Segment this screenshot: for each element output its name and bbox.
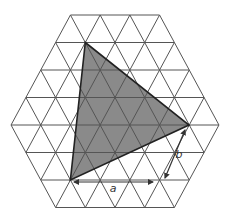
grid-line [41,70,56,98]
grid-line [56,43,71,71]
grid-line [56,125,71,153]
grid-line [70,180,85,208]
grid-line [174,180,189,208]
grid-line [41,180,56,208]
grid-line [26,98,41,126]
grid-line [85,180,100,208]
grid-line [26,70,41,98]
grid-line [204,98,219,126]
grid-line [160,43,175,71]
grid-line [11,125,26,153]
grid-line [115,15,130,43]
grid-line [189,125,204,153]
grid-line [56,15,71,43]
grid-line [174,70,189,98]
lattice-triangle-figure: ab [0,0,235,219]
grid-line [130,180,145,208]
grid-line [160,15,175,43]
grid-line [26,153,41,181]
grid-line [56,70,71,98]
grid-line [145,15,160,43]
grid-line [145,43,160,71]
grid-line [70,15,85,43]
grid-line [11,98,26,126]
grid-line [41,125,56,153]
grid-line [26,125,41,153]
grid-line [189,153,204,181]
grid-line [115,43,130,71]
grid-line [56,98,71,126]
grid-line [145,153,160,181]
grid-line [41,153,56,181]
grid-line [41,98,56,126]
grid-line [189,70,204,98]
grid-line [204,125,219,153]
grid-line [56,153,71,181]
grid-line [145,70,160,98]
grid-line [160,153,175,181]
grid-line [189,98,204,126]
grid-line [85,15,100,43]
grid-line [130,153,145,181]
grid-line [130,15,145,43]
grid-line [160,70,175,98]
grid-line [100,15,115,43]
measure-label-a: a [110,182,117,195]
grid-line [160,180,175,208]
grid-line [174,43,189,71]
measure-label-b: b [176,148,183,161]
grid-line [115,180,130,208]
grid-line [145,180,160,208]
grid-line [56,180,71,208]
grid-line [41,43,56,71]
grid-line [130,43,145,71]
